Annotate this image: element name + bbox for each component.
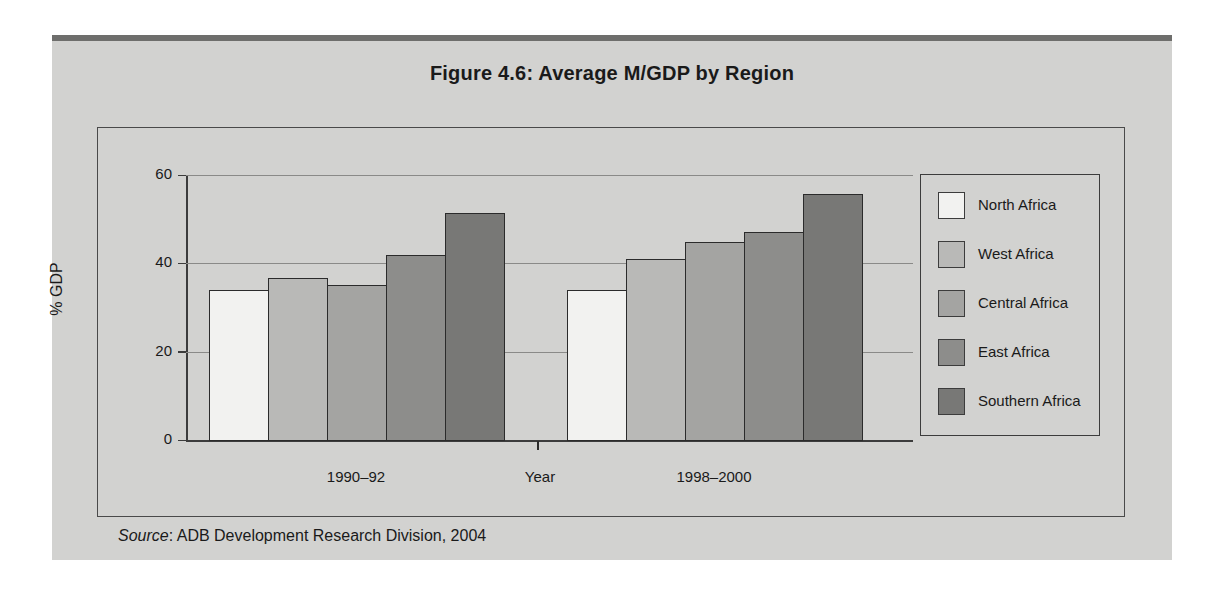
- x-tick-label-group-1: 1990–92: [286, 468, 426, 485]
- bar-north-africa-1: [209, 290, 269, 441]
- bar-east-africa-2: [744, 232, 804, 441]
- legend-label: Southern Africa: [978, 392, 1081, 409]
- y-tick-label-20: 20: [112, 342, 172, 359]
- x-axis-label: Year: [470, 468, 610, 485]
- gridline-60: [186, 175, 913, 176]
- legend-swatch-icon: [938, 192, 965, 219]
- x-axis-center-tick: [537, 441, 539, 450]
- bar-west-africa-1: [268, 278, 328, 441]
- legend-label: East Africa: [978, 343, 1050, 360]
- legend-label: North Africa: [978, 196, 1056, 213]
- y-tick-60: [178, 175, 186, 177]
- y-tick-0: [178, 440, 186, 442]
- chart-legend: North AfricaWest AfricaCentral AfricaEas…: [920, 174, 1100, 436]
- source-value: : ADB Development Research Division, 200…: [169, 527, 487, 544]
- y-tick-label-0: 0: [112, 430, 172, 447]
- y-axis-line: [186, 175, 188, 441]
- legend-swatch-icon: [938, 339, 965, 366]
- figure-page: Figure 4.6: Average M/GDP by Region 0204…: [0, 0, 1230, 600]
- y-tick-40: [178, 263, 186, 265]
- legend-swatch-icon: [938, 388, 965, 415]
- y-tick-label-60: 60: [112, 165, 172, 182]
- legend-label: Central Africa: [978, 294, 1068, 311]
- source-label: Source: [118, 527, 169, 544]
- bar-central-africa-1: [327, 285, 387, 441]
- legend-swatch-icon: [938, 241, 965, 268]
- bar-east-africa-1: [386, 255, 446, 441]
- legend-swatch-icon: [938, 290, 965, 317]
- figure-title: Figure 4.6: Average M/GDP by Region: [52, 62, 1172, 85]
- y-tick-label-40: 40: [112, 253, 172, 270]
- legend-label: West Africa: [978, 245, 1054, 262]
- top-rule-divider: [52, 35, 1172, 41]
- x-tick-label-group-2: 1998–2000: [644, 468, 784, 485]
- bar-north-africa-2: [567, 290, 627, 441]
- bar-southern-africa-2: [803, 194, 863, 441]
- y-axis-label: % GDP: [48, 229, 66, 349]
- bar-southern-africa-1: [445, 213, 505, 441]
- y-tick-20: [178, 351, 186, 353]
- source-note: Source: ADB Development Research Divisio…: [118, 527, 486, 545]
- bar-central-africa-2: [685, 242, 745, 441]
- bar-west-africa-2: [626, 259, 686, 441]
